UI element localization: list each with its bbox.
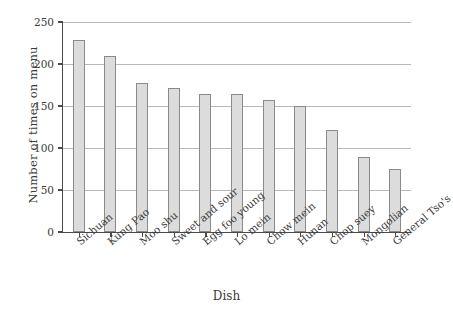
- y-tick-mark: [58, 231, 63, 232]
- bar: [326, 130, 338, 232]
- y-tick-label: 200: [24, 59, 54, 70]
- y-tick-mark: [58, 147, 63, 148]
- y-tick-label: 50: [24, 185, 54, 196]
- x-axis-title: Dish: [0, 289, 429, 303]
- y-tick-mark: [58, 63, 63, 64]
- y-tick-label: 250: [24, 17, 54, 28]
- y-tick-label: 150: [24, 101, 54, 112]
- bar: [104, 56, 116, 232]
- gridline: [63, 22, 411, 23]
- plot-area: [62, 22, 411, 233]
- y-axis-title: Number of times on menu: [26, 20, 40, 230]
- x-axis-title-text: Dish: [213, 289, 240, 303]
- bar: [73, 40, 85, 232]
- y-tick-mark: [58, 21, 63, 22]
- y-tick-label: 0: [24, 227, 54, 238]
- y-tick-mark: [58, 105, 63, 106]
- y-tick-mark: [58, 189, 63, 190]
- y-tick-label: 100: [24, 143, 54, 154]
